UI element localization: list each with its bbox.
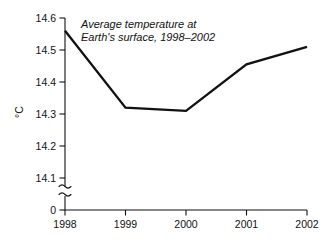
- temperature-line-chart: 14.6 14.5 14.4 14.3 14.2 14.1 0 °C 1998 …: [0, 0, 327, 245]
- chart-title: Average temperature at Earth's surface, …: [80, 18, 215, 43]
- chart-title-line-1: Average temperature at: [80, 18, 197, 30]
- y-tick-label-14-3: 14.3: [36, 108, 57, 120]
- x-tick-label-1999: 1999: [114, 218, 138, 230]
- y-axis-title: °C: [13, 106, 25, 118]
- y-tick-label-14-2: 14.2: [36, 140, 57, 152]
- y-tick-label-zero: 0: [50, 204, 56, 216]
- x-tick-label-1998: 1998: [53, 218, 77, 230]
- y-tick-label-14-5: 14.5: [36, 44, 57, 56]
- y-tick-label-14-4: 14.4: [36, 76, 57, 88]
- x-axis: 1998 1999 2000 2001 2002: [53, 210, 319, 230]
- y-tick-label-14-1: 14.1: [36, 172, 57, 184]
- chart-canvas: 14.6 14.5 14.4 14.3 14.2 14.1 0 °C 1998 …: [0, 0, 327, 245]
- x-tick-label-2001: 2001: [235, 218, 259, 230]
- axis-break-icon: [59, 185, 71, 196]
- x-tick-label-2000: 2000: [174, 218, 198, 230]
- y-tick-label-14-6: 14.6: [36, 12, 57, 24]
- y-axis: 14.6 14.5 14.4 14.3 14.2 14.1 0 °C: [13, 12, 71, 216]
- chart-title-line-2: Earth's surface, 1998–2002: [81, 31, 215, 43]
- x-tick-label-2002: 2002: [295, 218, 319, 230]
